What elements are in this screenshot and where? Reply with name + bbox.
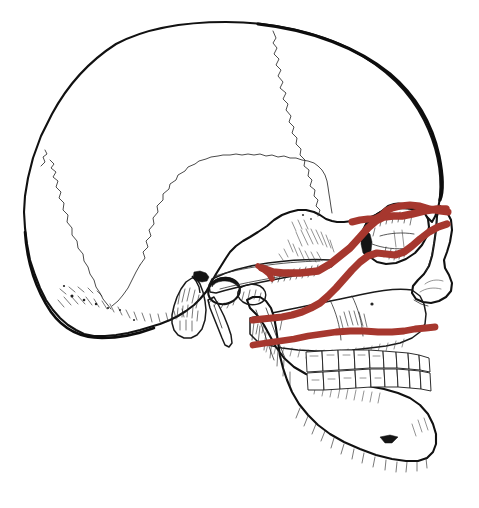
tooth-lower-6 [384, 369, 398, 387]
tooth-upper-7 [396, 352, 409, 369]
tooth-upper-6 [383, 351, 397, 368]
tooth-upper-9 [419, 355, 430, 372]
tooth-lower-9 [420, 371, 431, 391]
tooth-lower-8 [409, 370, 421, 389]
tooth-lower-4 [355, 369, 371, 388]
infraorbital-foramen [370, 302, 373, 305]
tooth-lower-2 [323, 371, 340, 390]
tooth-lower-3 [339, 370, 356, 389]
skull-figure [0, 0, 479, 508]
tooth-upper-8 [408, 353, 420, 370]
tooth-lower-7 [397, 369, 410, 388]
tooth-lower-1 [307, 372, 324, 390]
skull-illustration [0, 0, 479, 508]
tooth-upper-2 [322, 350, 339, 371]
tooth-upper-1 [306, 351, 323, 372]
tooth-upper-4 [354, 350, 370, 369]
tooth-upper-5 [369, 350, 384, 368]
tooth-upper-3 [338, 350, 355, 370]
